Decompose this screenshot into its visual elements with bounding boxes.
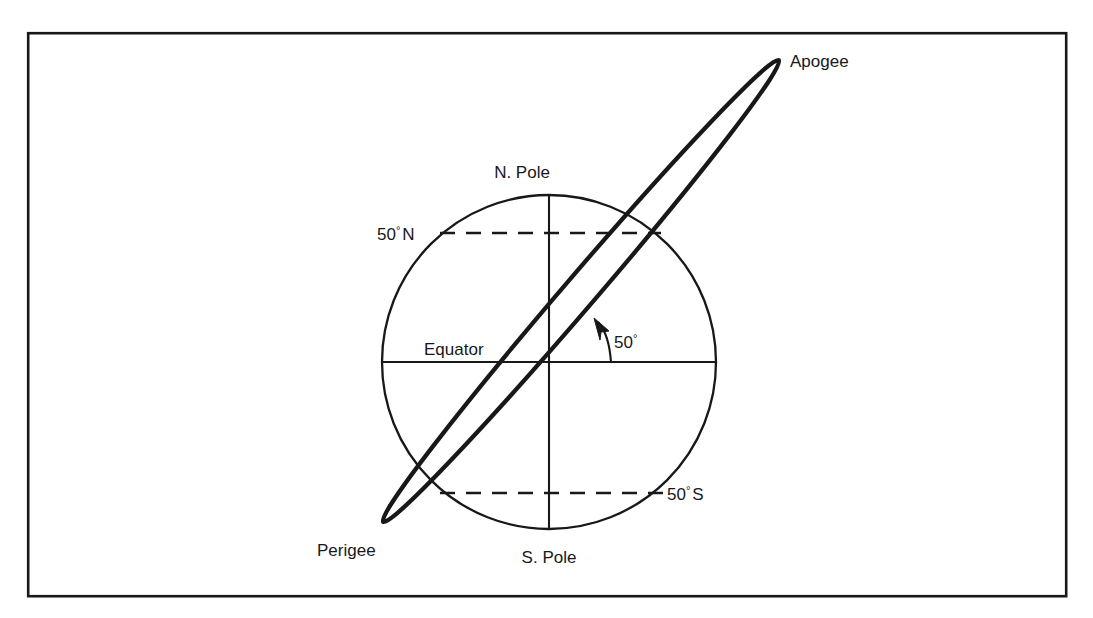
label-inclination-value: 50 (614, 333, 633, 352)
svg-text:50°S: 50°S (667, 484, 704, 504)
label-north-pole: N. Pole (494, 163, 550, 182)
label-latitude-50n: 50°N (377, 224, 415, 244)
label-south-pole: S. Pole (522, 548, 577, 567)
figure-border (28, 33, 1066, 596)
label-50s-value: 50 (667, 485, 686, 504)
label-inclination-angle: 50° (614, 332, 637, 352)
svg-text:50°N: 50°N (377, 224, 415, 244)
elliptical-orbit (371, 50, 791, 532)
orbit-diagram: N. Pole S. Pole Equator 50°N 50°S 50° Ap… (0, 0, 1093, 618)
label-50n-degree-symbol: ° (396, 224, 400, 236)
svg-text:50°: 50° (614, 332, 637, 352)
label-latitude-50s: 50°S (667, 484, 704, 504)
label-apogee: Apogee (790, 52, 849, 71)
label-perigee: Perigee (317, 541, 376, 560)
label-inclination-degree-symbol: ° (633, 332, 637, 344)
figure-root: N. Pole S. Pole Equator 50°N 50°S 50° Ap… (0, 0, 1093, 618)
label-50s-hemisphere: S (692, 485, 703, 504)
label-50n-hemisphere: N (402, 225, 414, 244)
label-50n-value: 50 (377, 225, 396, 244)
label-50s-degree-symbol: ° (686, 484, 690, 496)
label-equator: Equator (424, 340, 484, 359)
